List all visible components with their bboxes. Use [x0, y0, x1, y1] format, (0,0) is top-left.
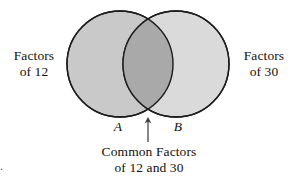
- right-set-label: Factors of 30: [232, 48, 296, 80]
- left-set-label-line1: Factors: [2, 48, 66, 64]
- intersection-caption-line2: of 12 and 30: [79, 160, 219, 176]
- intersection-caption-line1: Common Factors: [79, 144, 219, 160]
- venn-diagram-figure: Factors of 12 Factors of 30 A B Common F…: [0, 0, 298, 187]
- set-b-name-label: B: [170, 119, 186, 134]
- intersection-caption: Common Factors of 12 and 30: [79, 144, 219, 176]
- right-set-label-line1: Factors: [232, 48, 296, 64]
- left-set-label: Factors of 12: [2, 48, 66, 80]
- right-set-label-line2: of 30: [232, 64, 296, 80]
- set-a-name-label: A: [110, 119, 126, 134]
- left-set-label-line2: of 12: [2, 64, 66, 80]
- pointer-arrow: [145, 117, 152, 142]
- figure-corner-mark: .: [0, 160, 5, 174]
